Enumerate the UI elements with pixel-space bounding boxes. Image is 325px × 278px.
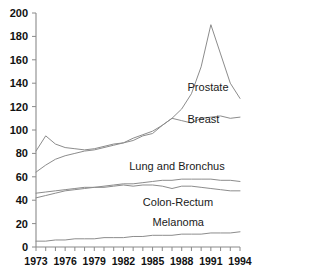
series-label-melanoma: Melanoma	[153, 216, 205, 228]
series-label-prostate: Prostate	[188, 81, 229, 93]
series-line-melanoma	[36, 232, 240, 241]
y-tick-label: 180	[10, 30, 28, 42]
series-label-colon-rectum: Colon-Rectum	[143, 196, 213, 208]
x-tick-label: 1988	[170, 255, 194, 267]
x-tick-label: 1985	[141, 255, 165, 267]
y-tick-label: 120	[10, 101, 28, 113]
chart-canvas: 0204060801001201401601802001973197619791…	[0, 0, 325, 278]
y-tick-label: 0	[22, 241, 28, 253]
y-tick-label: 20	[16, 218, 28, 230]
y-tick-label: 200	[10, 7, 28, 19]
y-tick-label: 60	[16, 171, 28, 183]
x-tick-label: 1979	[83, 255, 107, 267]
series-label-breast: Breast	[188, 113, 220, 125]
x-tick-label: 1976	[53, 255, 77, 267]
y-tick-label: 80	[16, 147, 28, 159]
cancer-incidence-line-chart: 0204060801001201401601802001973197619791…	[0, 0, 325, 278]
y-tick-label: 140	[10, 77, 28, 89]
x-tick-label: 1973	[24, 255, 48, 267]
y-tick-label: 100	[10, 124, 28, 136]
y-tick-label: 40	[16, 194, 28, 206]
series-label-lung-and-bronchus: Lung and Bronchus	[129, 160, 225, 172]
x-tick-label: 1982	[112, 255, 136, 267]
x-tick-label: 1994	[228, 255, 252, 267]
x-tick-label: 1991	[199, 255, 223, 267]
y-tick-label: 160	[10, 54, 28, 66]
